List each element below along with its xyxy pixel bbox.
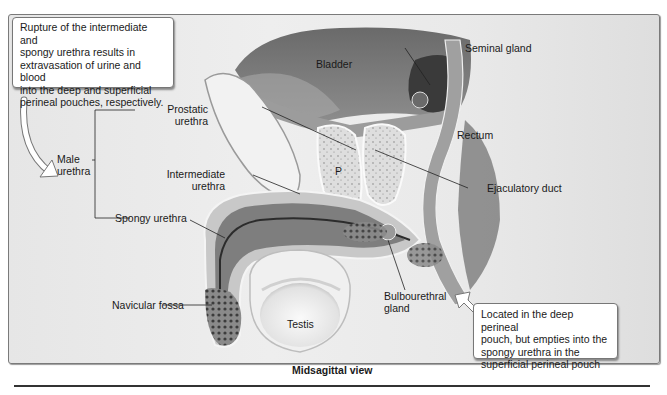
divider-rule (14, 385, 650, 387)
callout-rupture-line: into the deep and superficial (20, 84, 166, 97)
testis-shape (260, 283, 340, 347)
callout-bulbourethral-line: pouch, but empties into the (481, 333, 610, 346)
callout-rupture: Rupture of the intermediate and spongy u… (12, 17, 174, 88)
label-prostate-marker: P (335, 165, 342, 177)
label-text: Bulbourethral (384, 290, 446, 302)
label-navicular-fossa: Navicular fossa (112, 299, 184, 311)
label-bulbourethral-gland: Bulbourethral gland (384, 290, 446, 314)
callout-rupture-line: Rupture of the intermediate and (20, 21, 166, 46)
callout-rupture-line: spongy urethra results in (20, 46, 166, 59)
label-prostatic-urethra: Prostatic urethra (148, 103, 208, 127)
label-text: Intermediate (165, 168, 225, 180)
label-text: urethra (57, 165, 90, 177)
label-bladder: Bladder (316, 58, 352, 70)
callout-bulbourethral-line: Located in the deep perineal (481, 308, 610, 333)
callout-rupture-line: extravasation of urine and blood (20, 59, 166, 84)
label-male-urethra: Male urethra (57, 153, 90, 177)
male-urethra-bracket (95, 110, 135, 218)
label-text: Male (57, 153, 90, 165)
label-rectum: Rectum (457, 129, 493, 141)
label-ejaculatory-duct: Ejaculatory duct (487, 182, 562, 194)
label-spongy-urethra: Spongy urethra (115, 212, 187, 224)
callout-rupture-line: perineal pouches, respectively. (20, 96, 166, 109)
label-text: urethra (165, 180, 225, 192)
callout-bulbourethral-line: superficial perineal pouch (481, 358, 610, 371)
callout-bulbourethral-line: spongy urethra in the (481, 346, 610, 359)
label-text: gland (384, 302, 446, 314)
callout-bulbourethral: Located in the deep perineal pouch, but … (473, 303, 618, 359)
label-text: urethra (148, 115, 208, 127)
label-intermediate-urethra: Intermediate urethra (165, 168, 225, 192)
label-seminal-gland: Seminal gland (465, 42, 532, 54)
label-text: Prostatic (148, 103, 208, 115)
caption-midsagittal-view: Midsagittal view (292, 364, 373, 376)
label-testis: Testis (287, 318, 314, 330)
